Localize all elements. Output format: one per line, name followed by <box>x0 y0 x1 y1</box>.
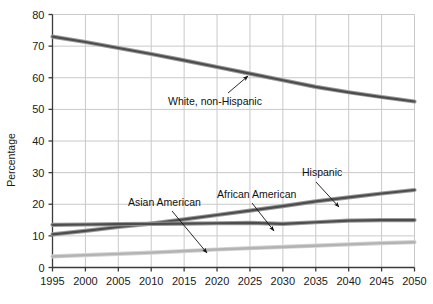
chart-canvas: 01020304050607080 1995200020052010201520… <box>0 0 433 304</box>
x-tick-label: 2020 <box>205 275 229 287</box>
y-tick-label: 50 <box>32 103 44 115</box>
series-annotation-label: African American <box>217 188 297 200</box>
series-annotation-label: Asian American <box>128 196 201 208</box>
y-tick-label: 20 <box>32 198 44 210</box>
chart-background <box>0 0 433 304</box>
x-tick-label: 2050 <box>402 275 426 287</box>
x-tick-label: 2010 <box>139 275 163 287</box>
x-tick-label: 2005 <box>106 275 130 287</box>
y-tick-label: 80 <box>32 9 44 21</box>
x-tick-label: 2040 <box>336 275 360 287</box>
y-tick-label: 30 <box>32 167 44 179</box>
x-tick-label: 1995 <box>40 275 64 287</box>
y-axis-tick-labels: 01020304050607080 <box>32 9 44 274</box>
series-annotation-label: White, non-Hispanic <box>168 95 262 107</box>
y-axis-title: Percentage <box>5 133 17 187</box>
series-annotation-label: Hispanic <box>302 166 342 178</box>
y-tick-label: 10 <box>32 230 44 242</box>
y-tick-label: 0 <box>38 262 44 274</box>
x-tick-label: 2000 <box>73 275 97 287</box>
x-tick-label: 2045 <box>369 275 393 287</box>
population-projection-chart: 01020304050607080 1995200020052010201520… <box>0 0 433 304</box>
y-tick-label: 70 <box>32 40 44 52</box>
x-tick-label: 2035 <box>304 275 328 287</box>
x-tick-label: 2030 <box>271 275 295 287</box>
y-tick-label: 40 <box>32 135 44 147</box>
y-tick-label: 60 <box>32 72 44 84</box>
x-tick-label: 2015 <box>172 275 196 287</box>
x-tick-label: 2025 <box>238 275 262 287</box>
